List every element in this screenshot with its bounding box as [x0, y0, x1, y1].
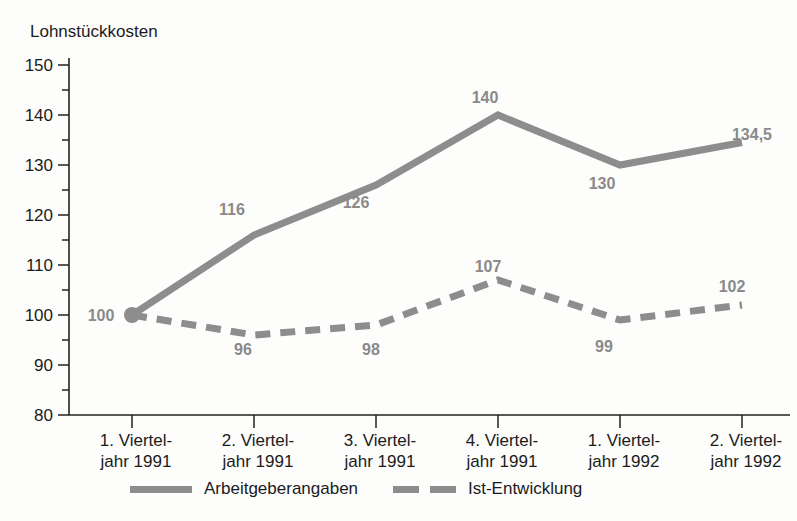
x-tick-label-1-line2: jahr 1991 [222, 452, 294, 471]
value-label-dashed-3: 107 [475, 258, 502, 275]
chart-container: Lohnstückkosten 150 140 130 120 110 100 … [0, 0, 797, 521]
y-axis-title: Lohnstückkosten [30, 22, 158, 41]
value-label-solid-2: 126 [343, 194, 370, 211]
value-label-dashed-1: 96 [234, 341, 252, 358]
legend-item-ist-entwicklung[interactable]: Ist-Entwicklung [393, 479, 582, 498]
value-label-solid-1: 116 [219, 201, 245, 218]
x-tick-label-5-line1: 2. Viertel- [710, 431, 782, 450]
y-tick-label-80: 80 [34, 406, 53, 425]
legend-swatch-dash-1 [393, 486, 419, 493]
value-label-dashed-4: 99 [595, 338, 613, 355]
value-label-solid-4: 130 [589, 175, 616, 192]
x-tick-label-5-line2: jahr 1992 [710, 452, 782, 471]
legend-label-arbeitgeberangaben: Arbeitgeberangaben [204, 479, 358, 498]
y-tick-label-100: 100 [25, 306, 53, 325]
start-point-marker [124, 307, 140, 323]
legend-item-arbeitgeberangaben[interactable]: Arbeitgeberangaben [130, 479, 358, 498]
y-tick-label-130: 130 [25, 156, 53, 175]
x-tick-label-3-line1: 4. Viertel- [466, 431, 538, 450]
x-tick-label-2-line1: 3. Viertel- [344, 431, 416, 450]
y-tick-label-120: 120 [25, 206, 53, 225]
value-label-solid-0: 100 [88, 307, 115, 324]
x-tick-label-1-line1: 2. Viertel- [222, 431, 294, 450]
x-tick-label-2-line2: jahr 1991 [344, 452, 416, 471]
y-tick-label-140: 140 [25, 106, 53, 125]
legend-swatch-dash-2 [430, 486, 456, 493]
y-tick-label-150: 150 [25, 56, 53, 75]
legend-label-ist-entwicklung: Ist-Entwicklung [468, 479, 582, 498]
legend: Arbeitgeberangaben Ist-Entwicklung [130, 479, 582, 498]
series-ist-entwicklung-line [132, 280, 742, 335]
value-label-dashed-2: 98 [362, 341, 380, 358]
x-tick-label-4-line2: jahr 1992 [588, 452, 660, 471]
legend-swatch-solid [130, 486, 192, 493]
y-tick-label-110: 110 [26, 256, 53, 275]
y-tick-label-90: 90 [34, 356, 53, 375]
value-label-solid-5: 134,5 [732, 126, 772, 143]
x-tick-label-4-line1: 1. Viertel- [588, 431, 660, 450]
line-chart: Lohnstückkosten 150 140 130 120 110 100 … [0, 0, 797, 521]
value-label-solid-3: 140 [472, 89, 499, 106]
x-tick-label-0-line2: jahr 1991 [100, 452, 172, 471]
value-label-dashed-5: 102 [719, 278, 746, 295]
x-tick-label-0-line1: 1. Viertel- [100, 431, 172, 450]
x-tick-label-3-line2: jahr 1991 [466, 452, 538, 471]
